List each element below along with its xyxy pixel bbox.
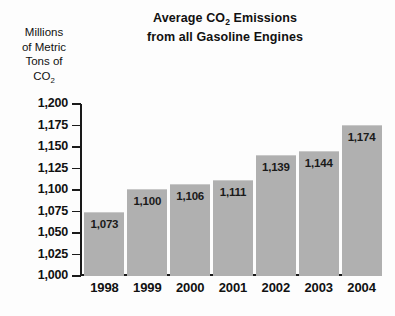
plot-area: 1,07319981,10019991,10620001,11120011,13… [80,104,380,276]
bar-value-label: 1,144 [299,157,339,169]
y-tick-label: 1,175 [10,118,68,132]
y-axis-label-line-3: Tons of [8,54,80,69]
bar[interactable] [256,155,296,276]
y-tick-label: 1,050 [10,225,68,239]
y-axis-label-line-1: Millions [8,25,80,40]
bar-value-label: 1,100 [127,195,167,207]
bar-group: 1,1742004 [342,104,382,276]
subscript-two: 2 [50,76,54,85]
chart-title-text-suffix: Emissions [230,11,297,25]
bar-value-label: 1,111 [213,186,253,198]
y-axis-label: Millions of Metric Tons of CO2 [8,25,80,85]
chart-title-text-prefix: Average CO [153,11,225,25]
bar-group: 1,1062000 [170,104,210,276]
chart-title: Average CO2 Emissions from all Gasoline … [95,9,355,46]
bar-value-label: 1,073 [84,218,124,230]
y-axis-label-line-2: of Metric [8,40,80,55]
y-axis-label-line-4: CO2 [8,69,80,86]
bar-value-label: 1,174 [342,131,382,143]
bar-group: 1,1112001 [213,104,253,276]
subscript-two: 2 [225,17,230,27]
bar-group: 1,0731998 [84,104,124,276]
y-tick-label: 1,100 [10,182,68,196]
chart-figure: Average CO2 Emissions from all Gasoline … [0,0,395,316]
y-tick-label: 1,075 [10,204,68,218]
y-tick-label: 1,000 [10,268,68,282]
bar-group: 1,1001999 [127,104,167,276]
y-tick-label: 1,125 [10,161,68,175]
y-axis-label-co: CO [33,70,50,82]
y-tick-label: 1,200 [10,96,68,110]
bar-value-label: 1,106 [170,190,210,202]
chart-title-line-1: Average CO2 Emissions [95,9,355,28]
y-tick-label: 1,150 [10,139,68,153]
bar-group: 1,1392002 [256,104,296,276]
bar-group: 1,1442003 [299,104,339,276]
bar[interactable] [342,125,382,276]
bar-value-label: 1,139 [256,161,296,173]
chart-title-line-2: from all Gasoline Engines [95,28,355,46]
y-tick-label: 1,025 [10,247,68,261]
bar[interactable] [299,151,339,276]
x-axis-category-label: 2004 [336,280,388,295]
